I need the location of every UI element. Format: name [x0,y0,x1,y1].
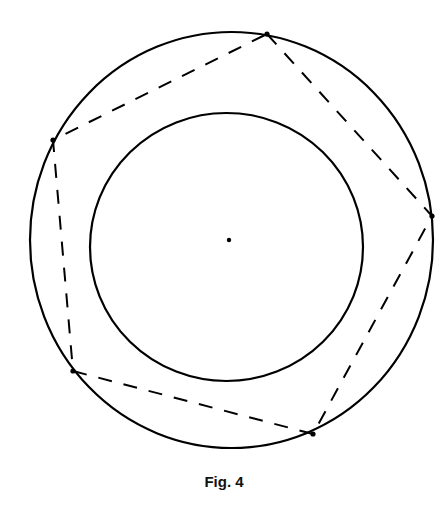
vertex-point [50,137,55,142]
inner-circle [90,113,363,381]
diagram-figure [0,0,448,511]
center-point [227,238,231,242]
vertex-point [70,368,75,373]
figure-caption: Fig. 4 [0,473,448,490]
vertex-point [429,213,434,218]
vertex-point [264,31,269,36]
vertex-point [310,431,315,436]
pentagon-vertex-points [50,31,434,436]
